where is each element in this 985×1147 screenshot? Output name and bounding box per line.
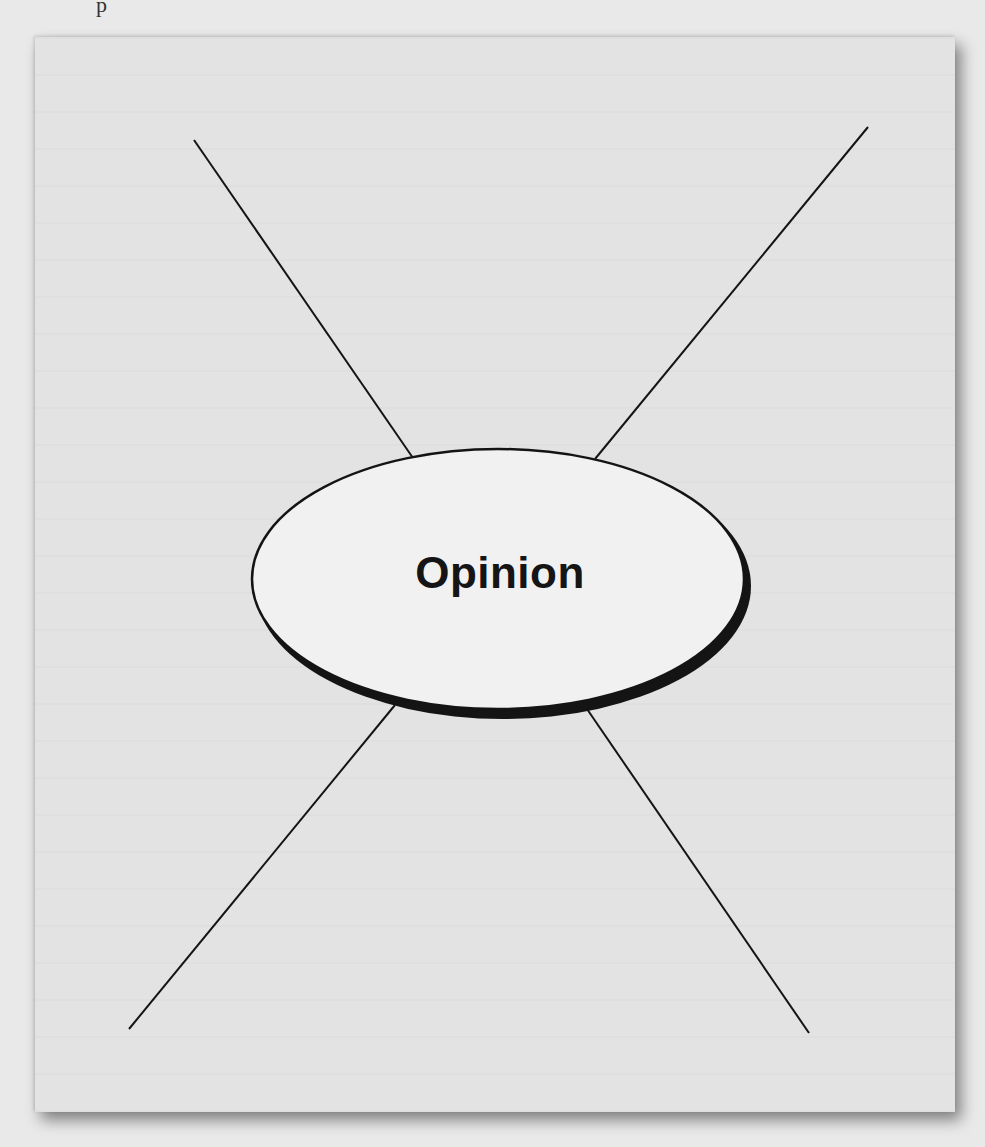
branch-line-bottom-right: [587, 709, 809, 1033]
center-node-label: Opinion: [300, 548, 700, 598]
branch-line-top-right: [595, 127, 868, 459]
branch-line-top-left: [194, 140, 413, 458]
branch-line-bottom-left: [129, 705, 395, 1029]
